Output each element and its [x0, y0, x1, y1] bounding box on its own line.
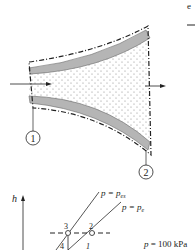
h-axis-label: h: [12, 193, 17, 204]
isobar-pe-label: p = pe: [121, 202, 145, 213]
state-point-3: [66, 231, 71, 236]
state-point-2: [90, 231, 95, 236]
state-label-4: 4: [60, 242, 64, 250]
station-2-label: 2: [144, 167, 149, 178]
nozzle-diagram: 1 2 e h p = pes p = pe 3 2 4 1 p = 100 k…: [0, 0, 195, 250]
isobar-pes-label: p = pes: [100, 188, 126, 199]
outlet-arrowhead: [160, 84, 166, 88]
state-label-3: 3: [64, 222, 68, 231]
station-1-label: 1: [31, 133, 36, 144]
state-label-2: 2: [89, 222, 93, 231]
h-axis-arrowhead: [21, 195, 25, 201]
isobar-pe: [68, 202, 121, 250]
pressure-note: p = 100 kPa: [143, 239, 187, 249]
state-label-1: 1: [86, 242, 90, 250]
corner-label: e: [187, 1, 191, 11]
